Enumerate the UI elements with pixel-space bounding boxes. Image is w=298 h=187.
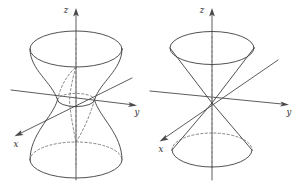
figure-background — [0, 0, 298, 187]
right-z-axis-label: z — [199, 5, 205, 15]
right-x-axis-label: x — [159, 144, 164, 154]
math-figure-pair: z y x z y x — [0, 0, 298, 187]
left-x-axis-label: x — [14, 139, 19, 149]
right-y-axis-label: y — [286, 107, 292, 117]
left-y-axis-label: y — [134, 107, 140, 117]
left-z-axis-label: z — [63, 5, 69, 15]
